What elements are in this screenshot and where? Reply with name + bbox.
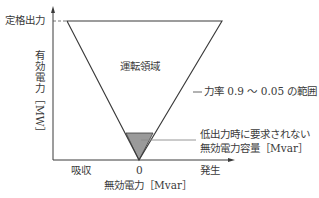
y-axis-arrow-icon xyxy=(51,6,55,13)
capability-diagram xyxy=(0,0,319,198)
x-axis-label: 無効電力［Mvar］ xyxy=(104,180,192,191)
x-axis-arrow-icon xyxy=(228,158,235,162)
power-factor-label: 力率 0.9 ～ 0.05 の範囲 xyxy=(204,86,317,97)
y-axis-label: 有効電力［MW］ xyxy=(34,50,45,138)
absorb-label: 吸収 xyxy=(71,165,91,176)
rated-output-label: 定格出力 xyxy=(5,15,45,26)
operating-region-label: 運転領域 xyxy=(120,61,160,72)
low-output-label-line1: 低出力時に要求されない xyxy=(200,129,310,140)
low-output-label-line2: 無効電力容量［Mvar］ xyxy=(200,143,308,154)
generate-label: 発生 xyxy=(200,165,220,176)
origin-label: 0 xyxy=(136,165,143,176)
unrequired-reactive-region xyxy=(126,133,153,160)
